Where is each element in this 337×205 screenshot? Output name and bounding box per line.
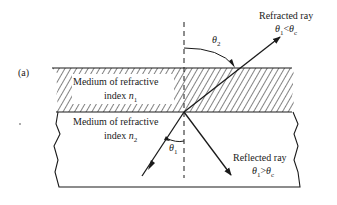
medium-n2-label-line2: index n2 <box>104 131 137 144</box>
medium-n1-label-line1: Medium of refractive <box>73 77 159 87</box>
panel-label: (a) <box>18 68 29 78</box>
reflected-ray-condition: θ1>θc <box>252 166 274 179</box>
refracted-ray-label: Refracted ray <box>259 11 313 21</box>
refraction-diagram: (a) Medium of refractive index n1 Medium… <box>0 0 337 205</box>
refracted-ray-condition: θ1<θc <box>275 24 297 37</box>
medium-n2-label-line1: Medium of refractive <box>73 117 159 127</box>
medium-n1-label-line2: index n1 <box>104 91 137 104</box>
theta2-label: θ2 <box>212 35 220 48</box>
reflected-ray-label: Reflected ray <box>233 153 287 163</box>
theta1-label: θ1 <box>169 143 177 156</box>
theta2-arc <box>184 48 234 66</box>
reflected-ray <box>184 112 231 175</box>
stray-dot <box>19 123 21 125</box>
theta2-arrowhead-icon <box>229 59 235 68</box>
